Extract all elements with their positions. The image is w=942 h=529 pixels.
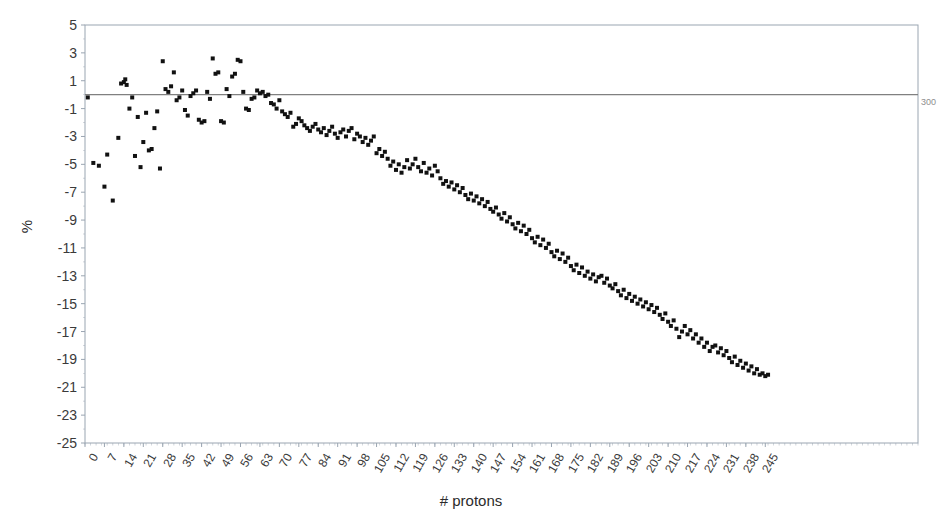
data-point [663, 311, 667, 315]
data-point [591, 272, 595, 276]
data-point [97, 164, 101, 168]
data-point [144, 111, 148, 115]
data-point [408, 167, 412, 171]
data-point [150, 147, 154, 151]
data-point [694, 332, 698, 336]
data-point [613, 282, 617, 286]
data-point [705, 341, 709, 345]
data-point [555, 249, 559, 253]
data-point [563, 260, 567, 264]
data-point [516, 221, 520, 225]
data-point [186, 114, 190, 118]
data-point [475, 194, 479, 198]
y-tick-label: 5 [35, 18, 77, 32]
data-point [288, 111, 292, 115]
data-point [152, 126, 156, 130]
right-edge-value-label: 300 [921, 97, 936, 107]
x-axis-title: # protons [0, 492, 942, 509]
data-point [766, 373, 770, 377]
data-point [123, 77, 127, 81]
data-point [419, 169, 423, 173]
data-point [674, 327, 678, 331]
data-point [661, 317, 665, 321]
data-point [463, 193, 467, 197]
data-point [136, 115, 140, 119]
data-point [755, 367, 759, 371]
data-point [605, 277, 609, 281]
data-point [469, 192, 473, 196]
data-point [513, 226, 517, 230]
data-point [344, 134, 348, 138]
data-point [411, 162, 415, 166]
data-point [733, 355, 737, 359]
data-point [266, 93, 270, 97]
data-point [624, 296, 628, 300]
data-point [430, 173, 434, 177]
y-tick-label: -1 [35, 102, 77, 116]
data-point [227, 94, 231, 98]
data-point [394, 168, 398, 172]
data-point [275, 107, 279, 111]
data-point [127, 107, 131, 111]
data-point [455, 183, 459, 187]
y-tick-label: -7 [35, 185, 77, 199]
data-point [558, 257, 562, 261]
data-point [599, 274, 603, 278]
data-point [638, 297, 642, 301]
data-point [444, 179, 448, 183]
data-point [494, 206, 498, 210]
data-point [158, 167, 162, 171]
data-point [233, 72, 237, 76]
data-point [636, 302, 640, 306]
data-point [680, 330, 684, 334]
data-point [222, 121, 226, 125]
data-point [377, 147, 381, 151]
data-point [502, 211, 506, 215]
data-point [238, 59, 242, 63]
data-point [569, 264, 573, 268]
data-point [627, 292, 631, 296]
y-tick-label: -15 [35, 297, 77, 311]
data-point [102, 185, 106, 189]
data-point [738, 359, 742, 363]
data-point [91, 161, 95, 165]
data-point [647, 307, 651, 311]
data-point [252, 95, 256, 99]
data-point [125, 83, 129, 87]
data-point [580, 265, 584, 269]
plot-canvas [0, 0, 942, 529]
data-point [433, 164, 437, 168]
data-point [402, 165, 406, 169]
data-point [594, 279, 598, 283]
data-point [666, 320, 670, 324]
data-point [522, 224, 526, 228]
y-tick-label: -5 [35, 157, 77, 171]
data-point [380, 154, 384, 158]
data-point [308, 129, 312, 133]
data-point [336, 136, 340, 140]
data-point [350, 126, 354, 130]
data-point [388, 164, 392, 168]
data-point [161, 59, 165, 63]
y-tick-label: -25 [35, 436, 77, 450]
data-point [141, 140, 145, 144]
data-point [272, 102, 276, 106]
data-point [749, 364, 753, 368]
data-point [688, 328, 692, 332]
data-point [358, 134, 362, 138]
y-tick-label: -11 [35, 241, 77, 255]
data-point [111, 199, 115, 203]
data-point [352, 137, 356, 141]
data-point [194, 88, 198, 92]
data-point [480, 197, 484, 201]
data-point [486, 200, 490, 204]
data-point [691, 337, 695, 341]
data-point [277, 98, 281, 102]
data-point [361, 140, 365, 144]
data-point [261, 90, 265, 94]
y-axis-title: % [18, 207, 35, 247]
data-point [547, 242, 551, 246]
data-point [405, 158, 409, 162]
data-point [752, 371, 756, 375]
data-point [211, 56, 215, 60]
